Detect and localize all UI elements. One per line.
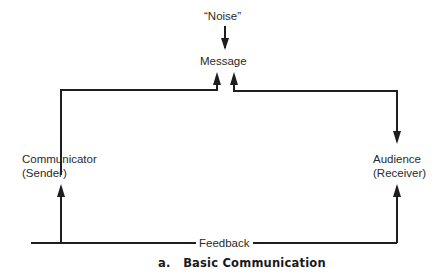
diagram-connectors <box>0 0 447 272</box>
audience-name: Audience <box>373 152 426 166</box>
audience-label: Audience (Receiver) <box>373 152 426 180</box>
feedback-left-arrowhead <box>57 184 65 197</box>
audience-role: (Receiver) <box>373 166 426 180</box>
message-to-audience-path <box>234 78 397 138</box>
feedback-label: Feedback <box>196 236 253 250</box>
message-label: Message <box>200 54 247 68</box>
communicator-label: Communicator (Sender) <box>22 152 97 180</box>
audience-arrowhead <box>393 131 401 144</box>
noise-label: “Noise” <box>204 9 241 23</box>
sender-to-message-arrowhead <box>213 72 221 85</box>
message-up-arrowhead <box>230 72 238 85</box>
communication-diagram: “Noise” Message Communicator (Sender) Au… <box>0 0 447 272</box>
noise-arrowhead <box>221 38 229 50</box>
communicator-role: (Sender) <box>22 166 97 180</box>
figure-caption: a. Basic Communication <box>158 256 326 270</box>
communicator-name: Communicator <box>22 152 97 166</box>
feedback-right-arrowhead <box>393 184 401 197</box>
